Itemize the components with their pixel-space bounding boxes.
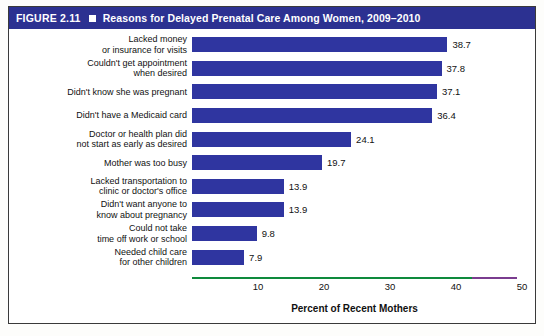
bar-label-line1: Didn't want anyone to [9,199,187,210]
table-row: Couldn't get appointment when desired 37… [9,57,535,81]
bar-label-line2: not start as early as desired [9,139,187,150]
table-row: Mother was too busy 19.7 [9,151,535,175]
bar [192,37,447,52]
x-axis-segment-end [472,277,517,279]
bar-wrap: 37.1 [192,80,525,104]
bar-label: Could not take time off work or school [9,223,187,244]
table-row: Didn't have a Medicaid card 36.4 [9,104,535,128]
bar-label-line2: or insurance for visits [9,45,187,56]
bar-value: 24.1 [356,134,375,145]
bar-label: Didn't have a Medicaid card [9,110,187,121]
figure-number: FIGURE 2.11 [16,12,81,24]
bar-label-line2: for other children [9,257,187,268]
bar-label-line2: when desired [9,68,187,79]
table-row: Could not take time off work or school 9… [9,222,535,246]
bar-label-line1: Mother was too busy [9,158,187,169]
bar-wrap: 7.9 [192,245,525,269]
bar-value: 37.1 [442,86,461,97]
bar-wrap: 13.9 [192,198,525,222]
bar-label: Lacked transportation to clinic or docto… [9,176,187,197]
bar-label-line1: Needed child care [9,247,187,258]
table-row: Lacked transportation to clinic or docto… [9,175,535,199]
chart-plot-area: Lacked money or insurance for visits 38.… [9,29,535,325]
x-axis-title: Percent of Recent Mothers [192,303,517,314]
bar-value: 9.8 [262,228,275,239]
x-tick-label: 10 [253,281,264,292]
bar-value: 13.9 [289,181,308,192]
bar-label: Mother was too busy [9,158,187,169]
figure-title-bar: FIGURE 2.11 Reasons for Delayed Prenatal… [9,7,535,29]
bar-label: Lacked money or insurance for visits [9,34,187,55]
bar-wrap: 13.9 [192,175,525,199]
bar [192,61,442,76]
bar [192,84,437,99]
bar-label-line1: Didn't have a Medicaid card [9,110,187,121]
bar-value: 37.8 [447,63,466,74]
x-axis-line [192,277,517,279]
bar [192,108,432,123]
bar-value: 13.9 [289,204,308,215]
bar-wrap: 9.8 [192,222,525,246]
figure-frame: FIGURE 2.11 Reasons for Delayed Prenatal… [8,6,536,324]
bar [192,202,284,217]
bar-value: 36.4 [437,110,456,121]
bar-wrap: 38.7 [192,33,525,57]
square-bullet-icon [89,15,96,22]
bar-label: Doctor or health plan did not start as e… [9,129,187,150]
x-tick-label: 30 [385,281,396,292]
bar-value: 7.9 [249,252,262,263]
bar-wrap: 19.7 [192,151,525,175]
bar-value: 19.7 [327,157,346,168]
bar [192,226,257,241]
figure-page: FIGURE 2.11 Reasons for Delayed Prenatal… [0,0,544,336]
table-row: Needed child care for other children 7.9 [9,245,535,269]
bar-label-line1: Doctor or health plan did [9,129,187,140]
bar-list: Lacked money or insurance for visits 38.… [9,33,535,269]
bar-label: Didn't know she was pregnant [9,87,187,98]
x-tick-label: 50 [517,281,528,292]
bar-label: Needed child care for other children [9,247,187,268]
bar [192,179,284,194]
bar-label-line1: Couldn't get appointment [9,58,187,69]
x-tick-label: 20 [319,281,330,292]
bar-label-line2: know about pregnancy [9,210,187,221]
table-row: Didn't know she was pregnant 37.1 [9,80,535,104]
bar [192,250,244,265]
bar-wrap: 24.1 [192,127,525,151]
table-row: Doctor or health plan did not start as e… [9,127,535,151]
bar-label-line1: Could not take [9,223,187,234]
bar [192,132,351,147]
bar-label-line1: Lacked money [9,34,187,45]
bar [192,155,322,170]
bar-label-line2: clinic or doctor's office [9,186,187,197]
bar-label-line1: Didn't know she was pregnant [9,87,187,98]
table-row: Didn't want anyone to know about pregnan… [9,198,535,222]
x-axis-ticks: 10 20 30 40 50 [192,281,517,295]
bar-value: 38.7 [452,39,471,50]
bar-wrap: 36.4 [192,104,525,128]
bar-label-line2: time off work or school [9,234,187,245]
table-row: Lacked money or insurance for visits 38.… [9,33,535,57]
x-tick-label: 40 [451,281,462,292]
bar-label-line1: Lacked transportation to [9,176,187,187]
bar-label: Couldn't get appointment when desired [9,58,187,79]
bar-wrap: 37.8 [192,57,525,81]
bar-label: Didn't want anyone to know about pregnan… [9,199,187,220]
figure-title: Reasons for Delayed Prenatal Care Among … [103,12,421,24]
